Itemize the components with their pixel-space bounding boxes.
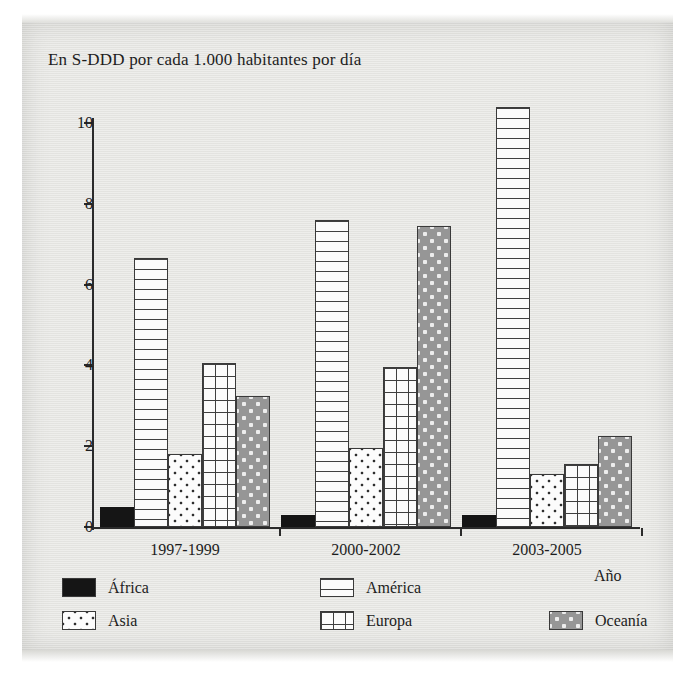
bar-america-2003-2005 [496, 107, 530, 527]
legend-swatch-europa [320, 611, 354, 630]
y-axis-tick-label: 10 [67, 114, 93, 132]
bar-europa-1997-1999 [202, 363, 236, 527]
bar-oceania-2003-2005 [598, 436, 632, 527]
legend-item-oceania: Oceanía [549, 611, 647, 630]
legend-swatch-oceania [549, 611, 583, 630]
bar-asia-2000-2002 [349, 448, 383, 527]
bar-asia-2003-2005 [530, 474, 564, 527]
legend-swatch-africa [62, 578, 96, 597]
legend-swatch-america [320, 578, 354, 597]
legend-item-africa: África [62, 578, 149, 597]
x-axis-group-label: 2003-2005 [512, 541, 581, 559]
y-axis-tick-label: 0 [67, 518, 93, 536]
legend-label: África [108, 579, 149, 597]
legend-label: Europa [366, 612, 412, 630]
bar-america-2000-2002 [315, 220, 349, 527]
y-axis-tick-label: 4 [67, 356, 93, 374]
x-axis-group-label: 2000-2002 [331, 541, 400, 559]
bar-asia-1997-1999 [168, 454, 202, 527]
y-axis-tick-label: 2 [67, 437, 93, 455]
x-axis-line [92, 527, 640, 529]
chart-legend: ÁfricaAméricaAsiaEuropaOceanía [62, 578, 652, 640]
bar-africa-1997-1999 [100, 507, 134, 527]
legend-item-asia: Asia [62, 611, 137, 630]
bar-europa-2000-2002 [383, 367, 417, 527]
x-axis-tick [279, 528, 281, 536]
plot-area: 0246810 1997-19992000-20022003-2005 Año [0, 0, 695, 674]
bar-africa-2000-2002 [281, 515, 315, 527]
bar-africa-2003-2005 [462, 515, 496, 527]
x-axis-tick [641, 528, 643, 536]
bar-oceania-2000-2002 [417, 226, 451, 527]
legend-item-america: América [320, 578, 421, 597]
legend-item-europa: Europa [320, 611, 412, 630]
x-axis-tick [460, 528, 462, 536]
legend-label: América [366, 579, 421, 597]
bar-oceania-1997-1999 [236, 396, 270, 527]
y-axis-tick-label: 6 [67, 276, 93, 294]
bar-europa-2003-2005 [564, 464, 598, 527]
bar-america-1997-1999 [134, 258, 168, 527]
y-axis-tick-label: 8 [67, 195, 93, 213]
x-axis-group-label: 1997-1999 [150, 541, 219, 559]
legend-label: Oceanía [595, 612, 647, 630]
chart-figure: En S-DDD por cada 1.000 habitantes por d… [0, 0, 695, 674]
y-axis-line [92, 118, 94, 530]
legend-swatch-asia [62, 611, 96, 630]
legend-label: Asia [108, 612, 137, 630]
